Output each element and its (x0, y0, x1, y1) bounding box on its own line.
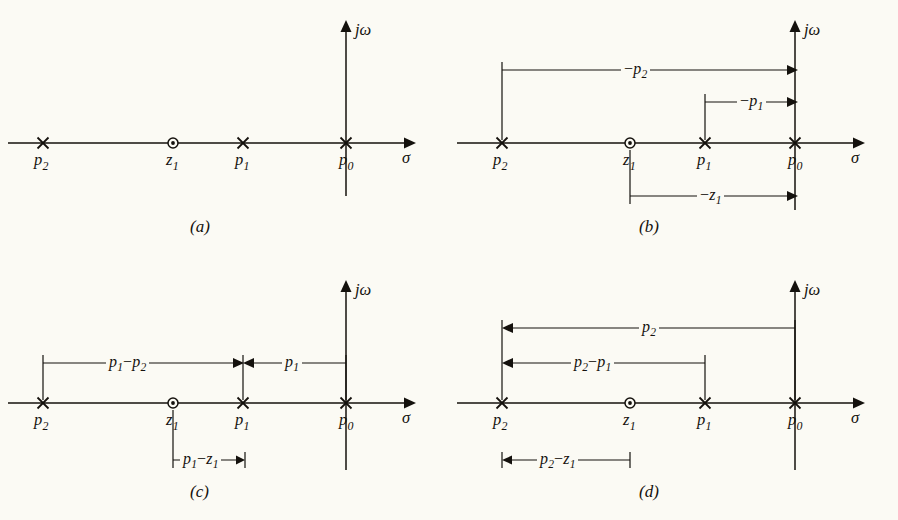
zero-marker-z1 (625, 398, 635, 408)
pole-label-p2: p2 (493, 412, 507, 432)
imaginary-axis-arrowhead (790, 20, 801, 32)
zero-marker-z1 (625, 138, 635, 148)
panel-b: jω σ −p2 −p1 −z1 p2 z1 p1 p0 (b) (449, 0, 898, 260)
pole-zero-figure: jω σ p2 z1 p1 p0 (a) (0, 0, 898, 520)
real-axis-label: σ (851, 410, 859, 427)
imaginary-axis-label: jω (355, 22, 371, 39)
dimension-label-neg-z1: −z1 (697, 187, 724, 207)
panel-caption-d: (d) (639, 483, 659, 500)
dimension-label-p1-minus-z1: p1−z1 (180, 451, 221, 471)
panel-c-canvas (0, 260, 449, 520)
pole-label-p0: p0 (788, 412, 802, 432)
dimension-label-p1-minus-p2: p1−p2 (106, 354, 149, 374)
dimension-label-p1-span: p1 (282, 354, 302, 374)
real-axis-arrowhead (404, 138, 416, 149)
dimension-label-neg-p2: −p2 (621, 61, 650, 81)
pole-label-p2: p2 (493, 152, 507, 172)
panel-caption-b: (b) (639, 218, 659, 235)
imaginary-axis-label: jω (804, 282, 820, 299)
panel-c: jω σ p1−p2 p1 p1−z1 p2 z1 p1 p0 (c) (0, 260, 449, 520)
pole-label-p1: p1 (235, 412, 249, 432)
dimension-label-p2-minus-p1: p2−p1 (571, 354, 614, 374)
real-axis-arrowhead (853, 138, 865, 149)
panel-b-canvas (449, 0, 898, 260)
imaginary-axis-label: jω (355, 282, 371, 299)
zero-label-z1: z1 (166, 412, 179, 432)
real-axis-label: σ (402, 410, 410, 427)
pole-label-p1: p1 (235, 152, 249, 172)
zero-marker-z1 (168, 398, 178, 408)
dimension-label-p2-span: p2 (639, 319, 659, 339)
pole-label-p2: p2 (34, 152, 48, 172)
zero-label-z1: z1 (166, 152, 179, 172)
panel-a-canvas (0, 0, 449, 260)
pole-label-p1: p1 (697, 412, 711, 432)
imaginary-axis-label: jω (804, 22, 820, 39)
zero-label-z1: z1 (623, 412, 636, 432)
panel-a: jω σ p2 z1 p1 p0 (a) (0, 0, 449, 260)
imaginary-axis-arrowhead (341, 280, 352, 292)
pole-label-p0: p0 (788, 152, 802, 172)
zero-marker-z1 (168, 138, 178, 148)
panel-d-canvas (449, 260, 898, 520)
real-axis-label: σ (402, 150, 410, 167)
dimension-label-p2-minus-z1: p2−z1 (537, 451, 578, 471)
real-axis-label: σ (851, 150, 859, 167)
panel-caption-a: (a) (190, 218, 210, 235)
zero-label-z1: z1 (623, 152, 636, 172)
pole-label-p0: p0 (339, 412, 353, 432)
pole-label-p1: p1 (697, 152, 711, 172)
imaginary-axis-arrowhead (341, 20, 352, 32)
imaginary-axis-arrowhead (790, 280, 801, 292)
pole-label-p0: p0 (339, 152, 353, 172)
panel-caption-c: (c) (190, 483, 209, 500)
panel-d: jω σ p2 p2−p1 p2−z1 p2 z1 p1 p0 (d) (449, 260, 898, 520)
real-axis-arrowhead (404, 398, 416, 409)
real-axis-arrowhead (853, 398, 865, 409)
dimension-label-neg-p1: −p1 (737, 93, 766, 113)
pole-label-p2: p2 (34, 412, 48, 432)
